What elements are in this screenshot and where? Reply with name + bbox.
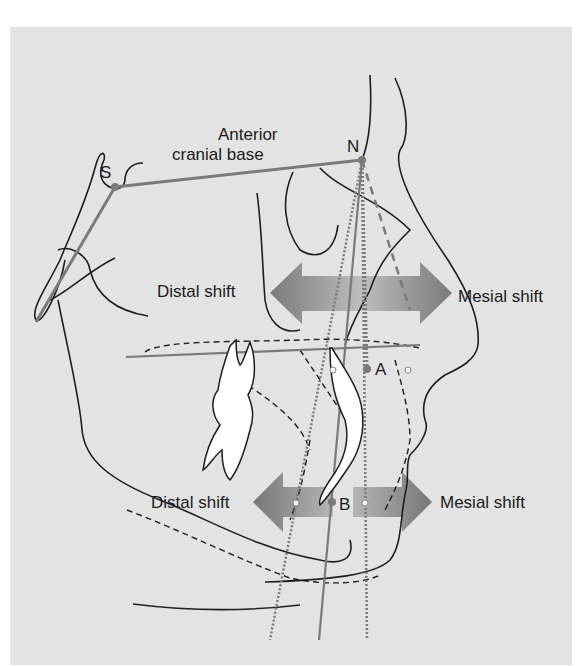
open-point [330,367,336,373]
palatal-plane [126,345,420,357]
label-lower-distal-shift: Distal shift [151,493,230,512]
label-anterior: Anterior [218,125,278,144]
point-b-marker [328,498,336,506]
open-point [293,500,299,506]
incisor-tooth [319,348,362,505]
label-lower-mesial-shift: Mesial shift [440,493,525,512]
label-upper-mesial-shift: Mesial shift [458,287,543,306]
point-n-marker [358,156,366,164]
label-upper-distal-shift: Distal shift [157,282,236,301]
point-s-marker [111,183,119,191]
open-point [362,500,368,506]
label-a: A [375,360,387,379]
upper-shift-arrow [270,262,452,324]
label-s: S [100,163,111,182]
cephalometric-diagram: Anterior cranial base S N A B Distal shi… [0,0,585,666]
label-cranial-base: cranial base [172,145,264,164]
open-point [405,367,411,373]
molar-tooth [203,340,254,480]
s-line [36,187,115,322]
label-b: B [339,495,350,514]
point-a-marker [363,365,371,373]
label-n: N [347,137,359,156]
